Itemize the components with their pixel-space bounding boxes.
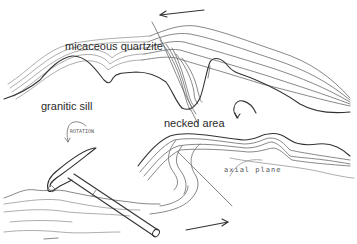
hammer-icon — [47, 148, 160, 238]
label-rotation: ROTATION — [70, 128, 94, 134]
shear-arrow-top — [160, 10, 204, 17]
label-axial-plane: axial plane — [224, 166, 281, 174]
label-granitic-sill: granitic sill — [41, 100, 92, 112]
label-necked-area: necked area — [164, 117, 225, 129]
label-micaceous-quartzite: micaceous quartzite — [65, 40, 163, 52]
lower-strata — [4, 190, 160, 239]
shear-arrow-bottom — [186, 219, 228, 230]
tight-fold — [142, 22, 350, 124]
rotation-arrow-right — [234, 101, 256, 118]
